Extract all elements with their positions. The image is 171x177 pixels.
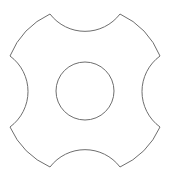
gear-plate-diagram (0, 0, 171, 177)
center-hole (56, 62, 114, 120)
